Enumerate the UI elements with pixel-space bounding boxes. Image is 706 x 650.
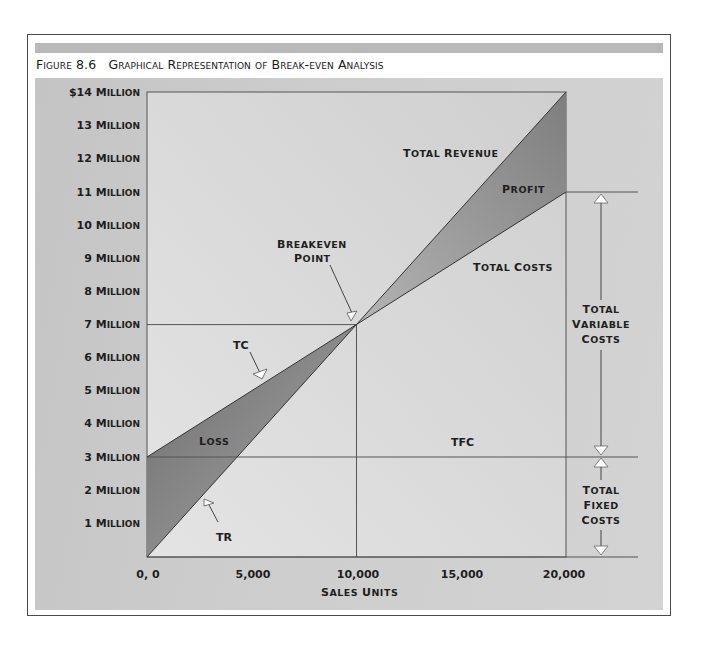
- y-tick-10: 10 MILLION: [77, 219, 140, 232]
- tfc-side-label-line2: FIXED: [583, 499, 618, 512]
- total-revenue-label: TOTAL REVENUE: [403, 147, 499, 160]
- x-axis-title: SALES UNITS: [321, 586, 398, 599]
- tr-label: TR: [216, 531, 233, 544]
- y-tick-13: 13 MILLION: [77, 119, 140, 132]
- y-tick-8: 8 MILLION: [84, 285, 140, 298]
- y-axis-ticks: $14 MILLION 13 MILLION 12 MILLION 11 MIL…: [69, 86, 140, 530]
- y-tick-1: 1 MILLION: [84, 517, 140, 530]
- tfc-down-arrow-icon: [594, 546, 608, 555]
- x-tick-0: 0, 0: [136, 568, 160, 581]
- breakeven-chart: $14 MILLION 13 MILLION 12 MILLION 11 MIL…: [0, 0, 706, 650]
- tvc-label-line2: VARIABLE: [572, 318, 630, 331]
- tvc-label-line1: TOTAL: [582, 303, 619, 316]
- y-tick-5: 5 MILLION: [84, 384, 140, 397]
- x-tick-15000: 15,000: [441, 568, 484, 581]
- y-tick-3: 3 MILLION: [84, 451, 140, 464]
- y-tick-11: 11 MILLION: [77, 186, 140, 199]
- total-costs-label: TOTAL COSTS: [473, 261, 553, 274]
- breakeven-label-line1: BREAKEVEN: [277, 238, 347, 251]
- x-tick-10000: 10,000: [337, 568, 380, 581]
- tvc-down-arrow-icon: [594, 446, 608, 455]
- x-tick-5000: 5,000: [236, 568, 271, 581]
- y-tick-7: 7 MILLION: [84, 318, 140, 331]
- y-tick-4: 4 MILLION: [84, 417, 140, 430]
- y-tick-6: 6 MILLION: [84, 351, 140, 364]
- tfc-up-arrow-icon: [594, 458, 608, 467]
- x-tick-20000: 20,000: [543, 568, 586, 581]
- y-tick-2: 2 MILLION: [84, 484, 140, 497]
- tfc-side-label-line3: COSTS: [582, 514, 621, 527]
- breakeven-label-line2: POINT: [294, 252, 331, 265]
- tc-label: TC: [233, 339, 249, 352]
- profit-label: PROFIT: [502, 183, 545, 196]
- y-tick-14: $14 MILLION: [69, 86, 140, 99]
- y-tick-9: 9 MILLION: [84, 252, 140, 265]
- loss-label: LOSS: [199, 435, 229, 448]
- tvc-up-arrow-icon: [594, 194, 608, 203]
- x-axis-ticks: 0, 0 5,000 10,000 15,000 20,000: [136, 568, 585, 581]
- tfc-label: TFC: [451, 436, 474, 449]
- y-tick-12: 12 MILLION: [77, 152, 140, 165]
- tfc-side-label-line1: TOTAL: [582, 484, 619, 497]
- tvc-label-line3: COSTS: [582, 333, 621, 346]
